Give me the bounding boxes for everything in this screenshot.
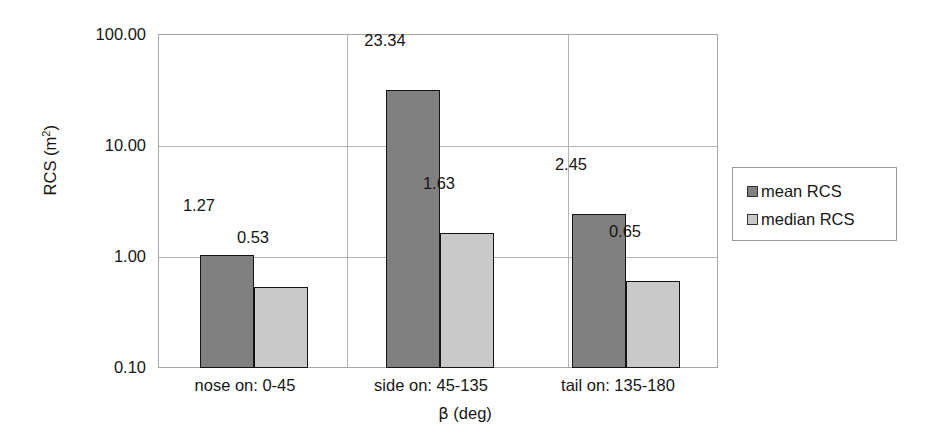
bar-mean-nose-on[interactable] [200, 255, 254, 368]
legend-item-mean-rcs[interactable]: mean RCS [747, 182, 888, 201]
x-axis-title: β (deg) [0, 404, 930, 423]
bar-mean-side-on[interactable] [386, 90, 440, 368]
bar-value-mean-tail-on: 2.45 [526, 155, 616, 174]
beta-symbol: β [438, 404, 449, 423]
y-axis-title: RCS (m2) [40, 80, 61, 240]
bar-value-mean-nose-on: 1.27 [154, 196, 244, 215]
legend-label-median-rcs: median RCS [761, 210, 855, 229]
y-tick-label-1: 1.00 [46, 247, 146, 266]
y-axis-title-exponent: 2 [40, 131, 52, 137]
x-axis-title-units: (deg) [449, 404, 492, 422]
bar-value-mean-side-on: 23.34 [340, 31, 430, 50]
chart-figure: 100.00 10.00 1.00 0.10 RCS (m2) 1.27 0.5… [0, 0, 930, 444]
x-tick-label-tail-on: tail on: 135-180 [508, 376, 728, 395]
category-separator-1 [347, 35, 348, 367]
legend-swatch-mean-icon [747, 186, 758, 197]
y-tick-label-100: 100.00 [46, 25, 146, 44]
legend-item-median-rcs[interactable]: median RCS [747, 210, 888, 229]
bar-median-nose-on[interactable] [254, 287, 308, 368]
bar-median-tail-on[interactable] [626, 281, 680, 368]
bar-value-median-side-on: 1.63 [394, 174, 484, 193]
legend-swatch-median-icon [747, 214, 758, 225]
bar-median-side-on[interactable] [440, 233, 494, 368]
y-axis-title-text: RCS (m [41, 137, 59, 196]
y-tick-label-0.1: 0.10 [46, 358, 146, 377]
bar-value-median-nose-on: 0.53 [208, 228, 298, 247]
legend-label-mean-rcs: mean RCS [761, 182, 842, 201]
y-axis-title-paren: ) [41, 125, 59, 131]
bar-value-median-tail-on: 0.65 [580, 222, 670, 241]
category-separator-2 [568, 35, 569, 367]
chart-legend: mean RCS median RCS [732, 167, 897, 241]
y-tick-label-10: 10.00 [46, 136, 146, 155]
